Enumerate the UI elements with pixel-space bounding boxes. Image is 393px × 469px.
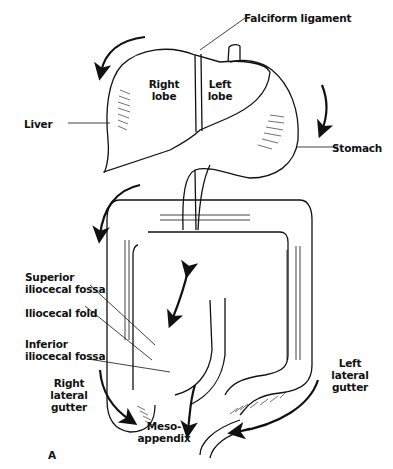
label-inf-line1: Inferior (25, 338, 105, 350)
ileum (175, 298, 225, 405)
arrow-colon-left (100, 185, 140, 235)
arrow-mesentery (172, 270, 188, 320)
label-right-lobe: Right lobe (144, 78, 184, 102)
label-right-lobe-line2: lobe (144, 90, 184, 102)
colon-outer (107, 200, 312, 432)
label-liver: Liver (24, 118, 52, 130)
label-inf-line2: iliocecal fossa (25, 350, 105, 362)
label-iliocecal-fold: Iliocecal fold (25, 307, 97, 319)
leader-lines (68, 18, 338, 372)
label-lg-line1: Left lateral (320, 357, 380, 381)
arrow-right-gutter (100, 370, 130, 420)
label-left-lateral-gutter: Left lateral gutter (320, 357, 380, 393)
falciform-ligament (195, 54, 202, 132)
label-sup-line2: iliocecal fossa (25, 283, 105, 295)
label-inferior-iliocecal-fossa: Inferior iliocecal fossa (25, 338, 105, 362)
label-lg-line2: gutter (320, 381, 380, 393)
label-falciform-ligament: Falciform ligament (244, 12, 351, 24)
label-rg-line2: lateral gutter (38, 389, 100, 413)
sigmoid-end (200, 420, 250, 458)
label-left-lobe-line2: lobe (205, 90, 235, 102)
label-left-lobe: Left lobe (205, 78, 235, 102)
label-meso-line1: Meso- (134, 420, 194, 432)
label-mesoappendix: Meso- appendix (134, 420, 194, 444)
label-meso-line2: appendix (134, 432, 194, 444)
label-sup-line1: Superior (25, 271, 105, 283)
label-superior-iliocecal-fossa: Superior iliocecal fossa (25, 271, 105, 295)
label-stomach: Stomach (332, 142, 382, 154)
stomach-outline (183, 60, 298, 230)
label-left-lobe-line1: Left (205, 78, 235, 90)
label-right-lateral-gutter: Right lateral gutter (38, 377, 100, 413)
liver-outline (104, 49, 270, 172)
label-rg-line1: Right (38, 377, 100, 389)
panel-letter: A (48, 449, 56, 461)
label-right-lobe-line1: Right (144, 78, 184, 90)
arrow-stomach (322, 85, 327, 130)
esophagus (228, 45, 240, 62)
